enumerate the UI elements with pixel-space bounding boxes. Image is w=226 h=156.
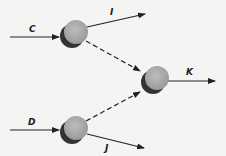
label-c: C bbox=[29, 24, 36, 34]
label-i: I bbox=[110, 7, 114, 17]
edge-j bbox=[87, 134, 144, 148]
edge-dashed-upper bbox=[86, 41, 140, 71]
edge-dashed-lower bbox=[86, 92, 140, 121]
flow-diagram: C I K D J bbox=[0, 0, 226, 156]
node-upper bbox=[60, 20, 88, 48]
node-lower bbox=[60, 116, 88, 144]
edge-i bbox=[87, 14, 145, 27]
node-right bbox=[141, 66, 169, 94]
label-j: J bbox=[103, 143, 109, 153]
label-d: D bbox=[28, 117, 36, 127]
label-k: K bbox=[186, 67, 194, 77]
